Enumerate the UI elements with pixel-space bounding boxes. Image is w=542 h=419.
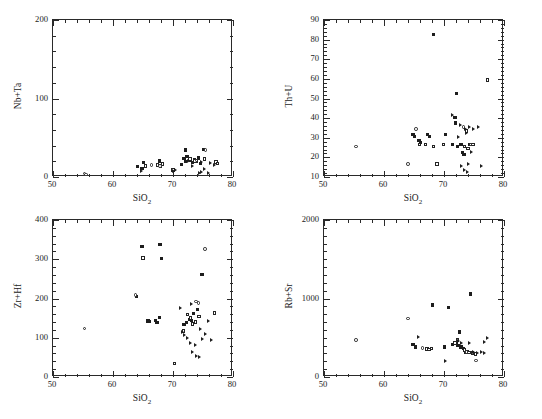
y-minor-tick xyxy=(501,306,504,307)
y-minor-tick xyxy=(324,291,327,292)
y-minor-tick xyxy=(324,322,327,323)
x-minor-tick xyxy=(492,220,493,223)
data-point xyxy=(486,336,489,340)
x-minor-tick xyxy=(432,374,433,377)
x-axis-label: SiO2 xyxy=(323,393,503,406)
y-minor-tick xyxy=(501,267,504,268)
y-minor-tick xyxy=(324,244,327,245)
chart-panel-bottom-right: 01000200050607080Rb+SrSiO2 xyxy=(0,0,542,419)
x-minor-tick xyxy=(468,220,469,223)
y-minor-tick xyxy=(501,283,504,284)
data-point xyxy=(443,345,446,348)
x-minor-tick xyxy=(360,220,361,223)
x-tick-label: 80 xyxy=(488,379,518,389)
data-point xyxy=(354,338,358,342)
data-point xyxy=(417,335,420,339)
x-minor-tick xyxy=(348,220,349,223)
x-tick-label: 70 xyxy=(428,379,458,389)
y-minor-tick xyxy=(324,314,327,315)
y-minor-tick xyxy=(501,330,504,331)
y-minor-tick xyxy=(324,330,327,331)
y-minor-tick xyxy=(501,251,504,252)
y-axis-label: Rb+Sr xyxy=(284,256,294,336)
x-minor-tick xyxy=(420,374,421,377)
x-major-tick xyxy=(504,220,505,226)
y-minor-tick xyxy=(324,369,327,370)
y-minor-tick xyxy=(501,259,504,260)
data-point xyxy=(468,341,471,345)
data-point xyxy=(444,359,447,363)
y-minor-tick xyxy=(501,236,504,237)
data-point xyxy=(476,351,479,355)
x-minor-tick xyxy=(480,374,481,377)
x-minor-tick xyxy=(432,220,433,223)
y-minor-tick xyxy=(324,236,327,237)
y-major-tick xyxy=(324,377,330,378)
data-point xyxy=(483,340,486,344)
y-minor-tick xyxy=(324,338,327,339)
x-major-tick xyxy=(384,371,385,377)
data-point xyxy=(431,303,434,306)
x-minor-tick xyxy=(492,374,493,377)
x-major-tick xyxy=(444,220,445,226)
y-major-tick xyxy=(324,299,330,300)
data-point xyxy=(458,330,461,333)
x-minor-tick xyxy=(456,374,457,377)
x-minor-tick xyxy=(348,374,349,377)
x-major-tick xyxy=(504,371,505,377)
x-minor-tick xyxy=(408,220,409,223)
x-minor-tick xyxy=(456,220,457,223)
y-minor-tick xyxy=(324,353,327,354)
data-point xyxy=(483,351,486,355)
y-minor-tick xyxy=(501,244,504,245)
y-minor-tick xyxy=(324,259,327,260)
y-minor-tick xyxy=(501,291,504,292)
y-tick-label: 2000 xyxy=(285,214,319,224)
data-point xyxy=(480,350,483,354)
y-minor-tick xyxy=(324,275,327,276)
x-minor-tick xyxy=(396,220,397,223)
x-tick-label: 50 xyxy=(308,379,338,389)
y-minor-tick xyxy=(324,361,327,362)
y-major-tick xyxy=(498,377,504,378)
y-minor-tick xyxy=(501,369,504,370)
data-point xyxy=(469,292,472,295)
y-minor-tick xyxy=(501,361,504,362)
x-minor-tick xyxy=(480,220,481,223)
x-minor-tick xyxy=(468,374,469,377)
y-minor-tick xyxy=(324,251,327,252)
y-minor-tick xyxy=(324,306,327,307)
x-major-tick xyxy=(444,371,445,377)
y-minor-tick xyxy=(324,283,327,284)
x-minor-tick xyxy=(336,220,337,223)
x-minor-tick xyxy=(420,220,421,223)
x-tick-label: 60 xyxy=(368,379,398,389)
data-point xyxy=(414,345,417,348)
y-major-tick xyxy=(324,220,330,221)
x-minor-tick xyxy=(372,220,373,223)
y-major-tick xyxy=(498,220,504,221)
data-point xyxy=(447,306,450,309)
x-major-tick xyxy=(384,220,385,226)
y-minor-tick xyxy=(501,228,504,229)
y-minor-tick xyxy=(501,353,504,354)
y-minor-tick xyxy=(501,275,504,276)
data-point xyxy=(430,347,434,351)
x-minor-tick xyxy=(396,374,397,377)
x-minor-tick xyxy=(408,374,409,377)
x-minor-tick xyxy=(336,374,337,377)
data-point xyxy=(472,350,475,354)
y-minor-tick xyxy=(501,346,504,347)
y-minor-tick xyxy=(324,346,327,347)
y-minor-tick xyxy=(324,228,327,229)
y-minor-tick xyxy=(501,314,504,315)
data-point xyxy=(465,350,469,354)
y-minor-tick xyxy=(324,267,327,268)
data-point xyxy=(462,346,465,350)
figure-canvas: 010020050607080Nb+TaSiO21020304050607080… xyxy=(0,0,542,419)
y-major-tick xyxy=(498,299,504,300)
x-minor-tick xyxy=(372,374,373,377)
y-minor-tick xyxy=(501,322,504,323)
x-minor-tick xyxy=(360,374,361,377)
y-minor-tick xyxy=(501,338,504,339)
